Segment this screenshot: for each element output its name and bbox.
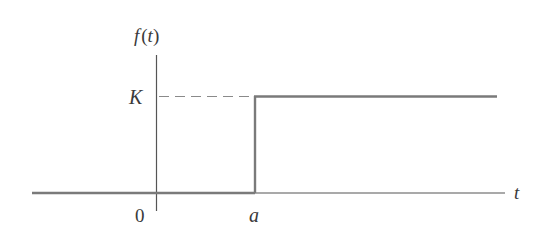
origin-label: 0 (135, 205, 145, 226)
k-level-label: K (128, 86, 144, 108)
x-axis-label: t (514, 182, 520, 203)
step-point-label: a (249, 204, 259, 226)
diagram-svg: f(t) K 0 a t (0, 0, 545, 234)
step-function-diagram: f(t) K 0 a t (0, 0, 545, 234)
function-label: f(t) (134, 25, 159, 47)
